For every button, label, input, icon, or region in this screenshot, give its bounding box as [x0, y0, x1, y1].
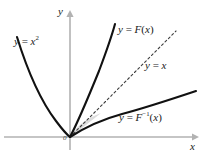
y-axis-label: y — [58, 6, 63, 17]
function-graph-figure: y = x2 y = F(x) y = x y = F−1(x) y x 0 — [0, 0, 203, 157]
label-inverse-function: y = F−1(x) — [119, 112, 162, 123]
origin-label: 0 — [63, 135, 67, 142]
label-identity-line-text: y = x — [145, 59, 167, 71]
label-forward-function-text: y = F(x) — [118, 23, 154, 35]
label-forward-function: y = F(x) — [118, 24, 154, 35]
x-axis-label: x — [190, 141, 195, 152]
label-inverse-function-text: y = F−1(x) — [119, 111, 162, 123]
curve-parabola — [17, 37, 70, 137]
label-parabola: y = x2 — [14, 36, 39, 47]
label-identity-line: y = x — [145, 60, 167, 71]
y-axis-arrowhead — [66, 10, 73, 17]
curve-forward-F — [70, 24, 115, 137]
label-parabola-text: y = x2 — [14, 35, 39, 47]
graph-canvas — [0, 0, 203, 157]
